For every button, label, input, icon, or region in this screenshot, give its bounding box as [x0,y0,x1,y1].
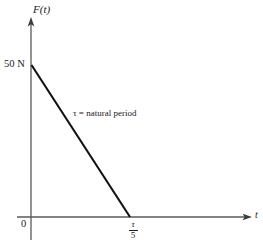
y-value-label-50n: 50 N [4,59,25,70]
fraction-denominator: 5 [123,231,143,240]
y-axis [28,17,35,240]
x-axis-label: t [255,210,258,220]
plot-canvas [0,0,263,251]
x-tick-label-tau-over-5: τ 5 [123,220,143,241]
annotation-natural-period: τ = natural period [73,109,136,118]
fraction-numerator: τ [123,220,143,229]
y-axis-label: F(t) [33,4,50,15]
force-time-figure: F(t) t 50 N 0 τ = natural period τ 5 [0,0,263,251]
origin-label: 0 [21,219,26,230]
force-decay-line [32,65,131,217]
